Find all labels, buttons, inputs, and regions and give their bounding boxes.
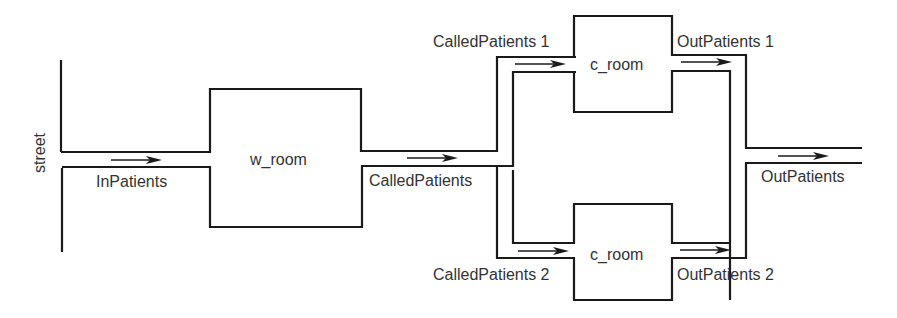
out-patients-label: OutPatients: [761, 168, 845, 185]
consult-room-1-label: c_room: [590, 56, 643, 74]
called-patients-1-label: CalledPatients 1: [433, 33, 550, 50]
arrow-out-patients-2: [680, 246, 731, 254]
called-patients-label: CalledPatients: [369, 172, 472, 189]
arrow-called-patients: [407, 154, 458, 162]
in-patients-label: InPatients: [96, 173, 167, 190]
waiting-room-lower-wall: [62, 72, 576, 227]
waiting-room-upper-wall: [61, 57, 576, 152]
arrow-called-patients-2: [518, 247, 569, 255]
out-patients-2-label: OutPatients 2: [677, 266, 774, 283]
arrow-in-patients: [111, 156, 162, 164]
arrow-out-patients-1: [681, 58, 732, 66]
called-patients-2-inner-wall: [513, 170, 730, 243]
street-label: street: [31, 132, 48, 173]
arrow-out-patients: [778, 152, 829, 160]
waiting-room-label: w_room: [249, 151, 307, 169]
arrow-called-patients-1: [515, 60, 566, 68]
out-patients-1-label: OutPatients 1: [677, 33, 774, 50]
consult-room-2-label: c_room: [590, 246, 643, 264]
called-patients-2-label: CalledPatients 2: [433, 266, 550, 283]
patient-flow-diagram: street InPatients w_room CalledPatients …: [0, 0, 897, 318]
